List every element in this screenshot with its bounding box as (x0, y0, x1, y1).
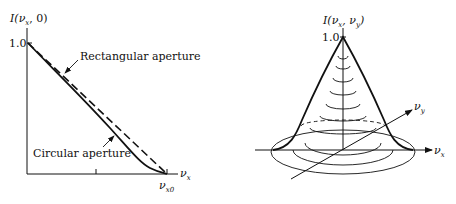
left-y-axis-label: I(νx, 0) (9, 12, 48, 27)
rectangular-aperture-label: Rectangular aperture (80, 50, 201, 63)
right-y-axis-label: νy (414, 100, 426, 115)
x-end-label: νx0 (159, 179, 175, 194)
peak-label: 1.0 (322, 31, 340, 44)
circular-aperture-label: Circular aperture (33, 147, 131, 160)
left-y-tick-label: 1.0 (9, 37, 27, 50)
circular-pointer (103, 136, 114, 147)
right-vertical-axis-label: I(νx, νy) (322, 14, 364, 29)
figure: I(νx, 0) 1.0 νx νx0 Rectangular aperture… (0, 0, 456, 204)
right-x-axis-label: νx (434, 144, 445, 159)
left-x-axis-label: νx (180, 167, 191, 182)
base-ellipse-mid (293, 150, 393, 165)
left-panel: I(νx, 0) 1.0 νx νx0 Rectangular aperture… (9, 12, 201, 194)
rectangular-pointer (65, 60, 78, 73)
right-panel: I(νx, νy) 1.0 νx νy (255, 14, 445, 179)
